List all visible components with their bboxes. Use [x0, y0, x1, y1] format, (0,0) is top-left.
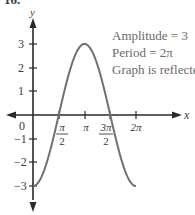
problem-number: 16.: [4, 0, 20, 7]
y-tick-label: −3: [14, 179, 27, 193]
y-tick-label: −1: [14, 132, 27, 146]
x-tick-label: π: [83, 121, 89, 133]
y-axis-arrow-up-icon: [30, 18, 37, 28]
annotation-period: Period = 2π: [112, 45, 173, 60]
origin-label: 0: [19, 119, 25, 133]
x-tick-label-numerator: 3π: [99, 121, 112, 133]
y-tick-label: −2: [14, 155, 27, 169]
y-tick-label: 3: [18, 37, 24, 51]
annotation-reflected: Graph is reflected: [112, 62, 195, 77]
y-axis-arrow-down-icon: [30, 202, 37, 212]
x-tick-label-denominator: 2: [103, 135, 109, 147]
x-tick-label-denominator: 2: [59, 135, 65, 147]
x-axis-arrow-right-icon: [172, 112, 182, 119]
chart-svg: 16. y x 0 3 2 1 −1 −2 −3 π 2 π 3π 2 2π: [0, 0, 195, 215]
y-tick-label: 2: [18, 61, 24, 75]
x-axis-arrow-left-icon: [6, 112, 16, 119]
y-tick-label: 1: [18, 84, 24, 98]
x-tick-label-numerator: π: [59, 121, 65, 133]
y-axis-label: y: [29, 6, 35, 18]
x-tick-label: 2π: [130, 121, 142, 133]
annotation-amplitude: Amplitude = 3: [112, 28, 188, 43]
x-axis-label: x: [183, 108, 190, 122]
